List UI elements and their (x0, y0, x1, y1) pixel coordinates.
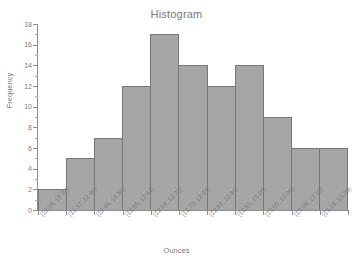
y-axis-tick-label: 18 (8, 21, 32, 28)
y-axis-tick-label: 0 (8, 207, 32, 214)
y-axis-tick-label: 8 (8, 124, 32, 131)
histogram-chart: Histogram Frequency 024681012141618 [12.… (0, 0, 353, 261)
chart-title: Histogram (0, 8, 353, 20)
y-axis-tick-label: 10 (8, 103, 32, 110)
plot-area (38, 24, 348, 210)
x-axis-tick (348, 211, 349, 215)
y-axis-tick-label: 6 (8, 145, 32, 152)
y-axis-tick-label: 2 (8, 186, 32, 193)
y-axis-tick-label: 16 (8, 41, 32, 48)
y-axis-tick-label: 4 (8, 165, 32, 172)
histogram-bar (150, 34, 179, 210)
x-axis-tick-labels: [12.28, 12.37)[12.37, 12.46)[12.46, 12.5… (38, 213, 348, 247)
x-axis-title: Ounces (0, 246, 353, 255)
bar-series (38, 24, 348, 210)
y-axis-tick-label: 14 (8, 62, 32, 69)
y-axis-tick-label: 12 (8, 83, 32, 90)
